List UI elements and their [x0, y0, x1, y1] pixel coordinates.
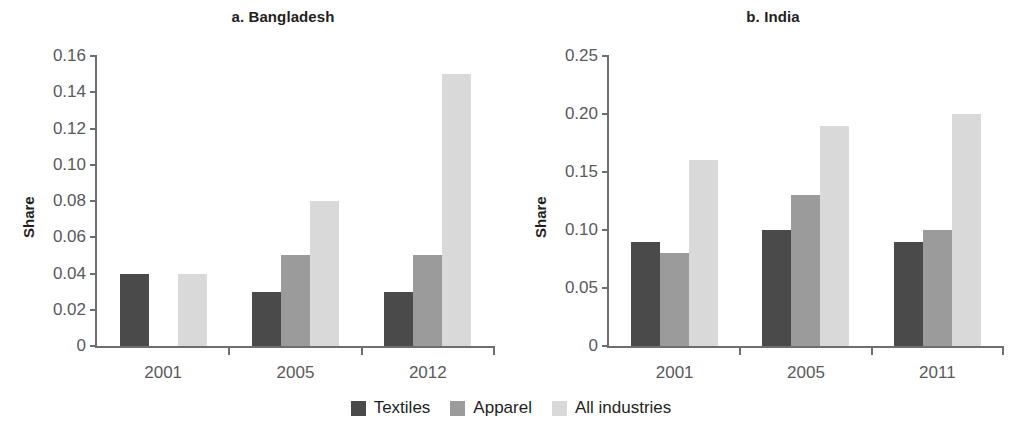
y-axis-tick-label: 0.25: [565, 46, 609, 66]
plot-area: 00.050.100.150.200.25200120052011: [607, 56, 1003, 348]
bar-group: [97, 56, 229, 346]
legend-label: Textiles: [374, 398, 431, 418]
y-axis-tick-label: 0.15: [565, 162, 609, 182]
bar-all-industries: [178, 274, 207, 347]
bar-all-industries: [689, 160, 718, 346]
y-axis-tick-label: 0.12: [53, 119, 97, 139]
y-axis-tick-label: 0.06: [53, 227, 97, 247]
y-axis-tick-label: 0: [77, 336, 97, 356]
chart-panel-bangladesh: a. Bangladesh Share 00.020.040.060.080.1…: [0, 0, 506, 396]
x-axis-tick-label: 2005: [787, 363, 825, 383]
y-axis-title: Share: [20, 196, 37, 238]
bar-textiles: [252, 292, 281, 346]
figure: a. Bangladesh Share 00.020.040.060.080.1…: [0, 0, 1012, 426]
bar-apparel: [413, 255, 442, 346]
y-axis-tick-label: 0.05: [565, 278, 609, 298]
y-axis-tick-label: 0.02: [53, 300, 97, 320]
bar-apparel: [281, 255, 310, 346]
x-axis-tick-label: 2001: [144, 363, 182, 383]
bar-group: [740, 56, 871, 346]
bar-group: [229, 56, 361, 346]
legend-swatch-icon: [351, 401, 366, 416]
plot-area: 00.020.040.060.080.100.120.140.162001200…: [95, 56, 494, 348]
y-axis-tick-label: 0.16: [53, 46, 97, 66]
bar-group: [609, 56, 740, 346]
legend-item: All industries: [552, 398, 671, 418]
x-axis-tick-mark: [871, 346, 873, 355]
bar-apparel: [791, 195, 820, 346]
legend: TextilesApparelAll industries: [0, 398, 1012, 418]
bar-all-industries: [442, 74, 471, 346]
bar-group: [872, 56, 1003, 346]
chart-panel-india: b. India Share 00.050.100.150.200.252001…: [506, 0, 1012, 396]
x-axis-tick-label: 2001: [656, 363, 694, 383]
bar-group: [362, 56, 494, 346]
bar-textiles: [384, 292, 413, 346]
legend-item: Textiles: [351, 398, 431, 418]
y-axis-title: Share: [532, 196, 549, 238]
y-axis-tick-label: 0.10: [565, 220, 609, 240]
x-axis-tick-label: 2012: [409, 363, 447, 383]
y-axis-tick-label: 0.20: [565, 104, 609, 124]
y-axis-tick-label: 0.04: [53, 264, 97, 284]
x-axis-tick-mark: [361, 346, 363, 355]
bar-textiles: [762, 230, 791, 346]
y-axis-tick-label: 0.10: [53, 155, 97, 175]
bar-textiles: [894, 242, 923, 346]
bar-all-industries: [310, 201, 339, 346]
legend-label: Apparel: [473, 398, 532, 418]
bar-apparel: [660, 253, 689, 346]
legend-swatch-icon: [450, 401, 465, 416]
bar-all-industries: [952, 114, 981, 346]
bar-apparel: [923, 230, 952, 346]
panel-title: b. India: [506, 8, 1012, 25]
panel-title: a. Bangladesh: [0, 8, 506, 25]
x-axis-tick-mark: [228, 346, 230, 355]
legend-label: All industries: [575, 398, 671, 418]
x-axis-tick-mark: [739, 346, 741, 355]
legend-item: Apparel: [450, 398, 532, 418]
bar-all-industries: [820, 126, 849, 346]
y-axis-tick-label: 0: [589, 336, 609, 356]
legend-swatch-icon: [552, 401, 567, 416]
y-axis-tick-label: 0.14: [53, 82, 97, 102]
x-axis-tick-label: 2011: [919, 363, 956, 383]
x-axis-end-cap: [1002, 346, 1004, 355]
bar-textiles: [631, 242, 660, 346]
bar-textiles: [120, 274, 149, 347]
y-axis-tick-label: 0.08: [53, 191, 97, 211]
x-axis-tick-label: 2005: [277, 363, 315, 383]
x-axis-end-cap: [493, 346, 495, 355]
